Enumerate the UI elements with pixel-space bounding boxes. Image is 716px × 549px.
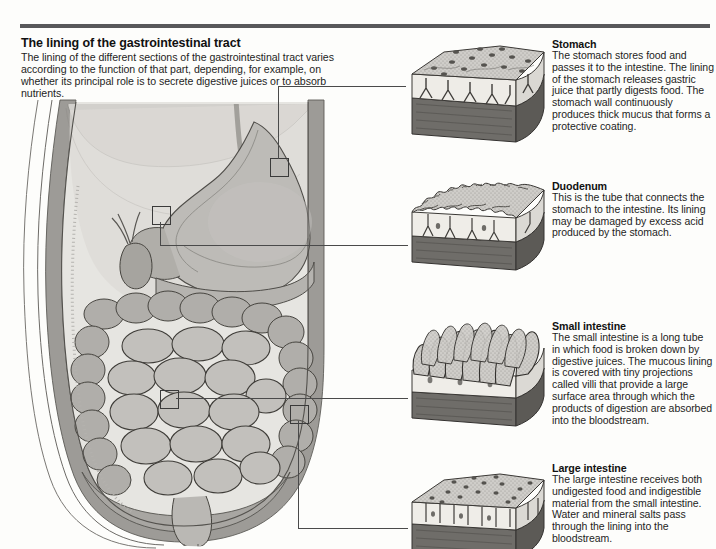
callout-box-large-intestine [290, 405, 309, 424]
leader-line-stomach-vertical [278, 86, 279, 159]
section-body-small-intestine: The small intestine is a long tube in wh… [552, 332, 714, 426]
section-text-large-intestine: Large intestine The large intestine rece… [552, 462, 714, 545]
figure-intro: The lining of the different sections of … [21, 52, 339, 100]
cross-section-panel-small-intestine [404, 318, 550, 432]
cross-section-panel-large-intestine [404, 458, 550, 549]
leader-line-large-intestine-horizontal [298, 528, 408, 529]
section-body-stomach: The stomach stores food and passes it to… [552, 50, 714, 133]
callout-box-stomach [270, 158, 289, 177]
figure-title: The lining of the gastrointestinal tract [21, 36, 351, 50]
cross-section-panel-duodenum [404, 178, 550, 278]
section-body-duodenum: This is the tube that connects the stoma… [552, 192, 714, 239]
callout-box-duodenum [152, 206, 171, 225]
section-body-large-intestine: The large intestine receives both undige… [552, 474, 714, 545]
abdomen-anatomy-illustration [8, 96, 400, 549]
callout-box-small-intestine [160, 390, 179, 409]
leader-line-large-intestine-vertical [298, 421, 299, 529]
leader-line-duodenum-horizontal [160, 245, 408, 246]
leader-line-duodenum-vertical [160, 222, 161, 246]
cross-section-panel-stomach [404, 38, 550, 156]
leader-line-stomach-horizontal [278, 86, 406, 87]
section-text-small-intestine: Small intestine The small intestine is a… [552, 320, 714, 426]
figure-page: The lining of the gastrointestinal tract… [0, 0, 716, 549]
leader-line-small-intestine-horizontal [176, 398, 408, 399]
section-text-stomach: Stomach The stomach stores food and pass… [552, 38, 714, 133]
header-rule [20, 24, 710, 28]
section-text-duodenum: Duodenum This is the tube that connects … [552, 180, 714, 239]
